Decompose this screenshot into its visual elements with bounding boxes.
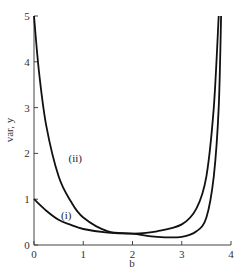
chart: 012345 01234 (i)(ii) b var, y xyxy=(0,0,245,276)
x-axis-label: b xyxy=(129,257,135,269)
curve-ii xyxy=(34,16,221,237)
curves xyxy=(34,16,221,237)
y-tick-label: 5 xyxy=(24,10,30,22)
y-tick-label: 2 xyxy=(24,147,30,159)
curve-labels: (i)(ii) xyxy=(61,152,82,222)
y-tick-label: 0 xyxy=(24,239,30,251)
curve-i xyxy=(34,16,219,234)
y-tick-label: 4 xyxy=(24,56,30,68)
y-tick-label: 1 xyxy=(24,193,30,205)
curve-label-ii: (ii) xyxy=(68,152,82,165)
x-tick-label: 4 xyxy=(228,248,234,260)
x-tick-label: 1 xyxy=(81,248,87,260)
curve-label-i: (i) xyxy=(61,209,72,222)
x-tick-label: 3 xyxy=(179,248,185,260)
y-tick-label: 3 xyxy=(24,102,30,114)
x-tick-label: 0 xyxy=(31,248,37,260)
y-axis-label: var, y xyxy=(3,117,15,142)
